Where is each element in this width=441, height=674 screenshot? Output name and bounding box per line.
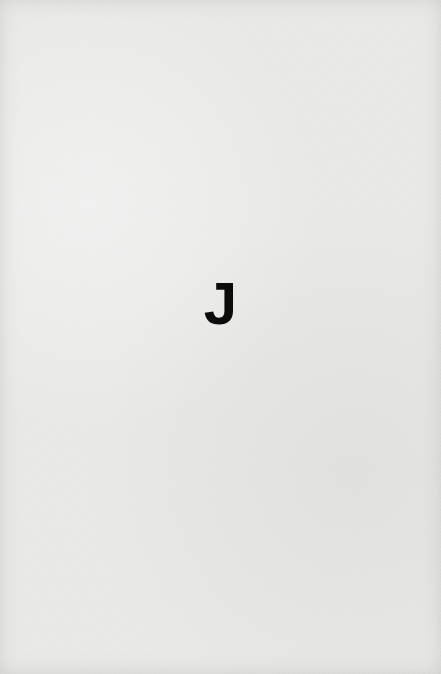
paper-card: J [0,0,441,674]
letter-glyph: J [0,272,441,336]
